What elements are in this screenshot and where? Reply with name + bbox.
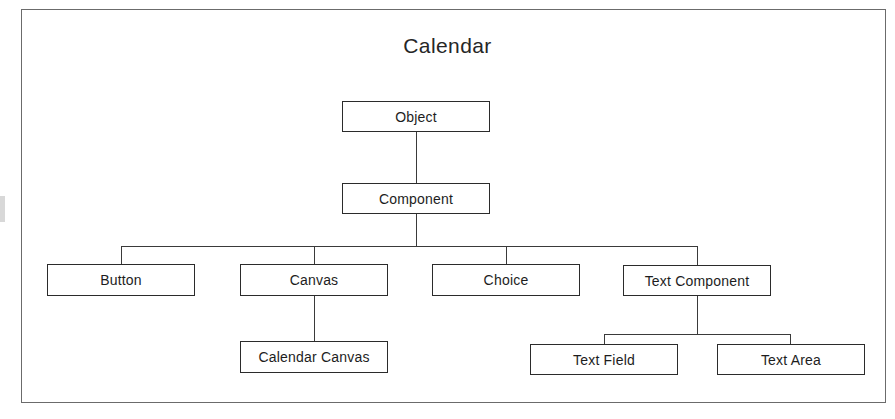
node-calendar-canvas[interactable]: Calendar Canvas [240, 341, 388, 373]
diagram-page: Calendar Object Component Button Canvas … [0, 0, 895, 419]
node-canvas-label: Canvas [290, 272, 339, 288]
node-calendar-canvas-label: Calendar Canvas [258, 349, 369, 365]
connector-bus-level2 [121, 246, 698, 247]
connector-bus-to-choice [506, 246, 507, 265]
connector-bus-to-canvas [314, 246, 315, 265]
scan-edge-artifact [0, 196, 5, 222]
connector-bus-to-button [121, 246, 122, 265]
node-object[interactable]: Object [342, 101, 490, 132]
diagram-title: Calendar [0, 33, 895, 59]
node-canvas[interactable]: Canvas [240, 264, 388, 296]
node-object-label: Object [395, 109, 437, 125]
node-text-area[interactable]: Text Area [717, 344, 865, 375]
node-text-component[interactable]: Text Component [623, 265, 771, 296]
connector-object-to-component [416, 131, 417, 183]
connector-canvas-to-calendar-canvas [314, 296, 315, 342]
node-button-label: Button [100, 272, 142, 288]
node-component-label: Component [379, 191, 453, 207]
node-choice[interactable]: Choice [432, 264, 580, 296]
node-choice-label: Choice [484, 272, 529, 288]
connector-bus-level3 [604, 334, 791, 335]
connector-bus-to-text-component [697, 246, 698, 265]
node-text-field[interactable]: Text Field [530, 344, 678, 375]
node-text-component-label: Text Component [645, 273, 750, 289]
node-text-area-label: Text Area [761, 352, 821, 368]
node-component[interactable]: Component [342, 183, 490, 214]
node-text-field-label: Text Field [573, 352, 635, 368]
node-button[interactable]: Button [47, 264, 195, 296]
connector-component-to-bus [416, 213, 417, 246]
connector-text-component-to-bus [697, 296, 698, 334]
